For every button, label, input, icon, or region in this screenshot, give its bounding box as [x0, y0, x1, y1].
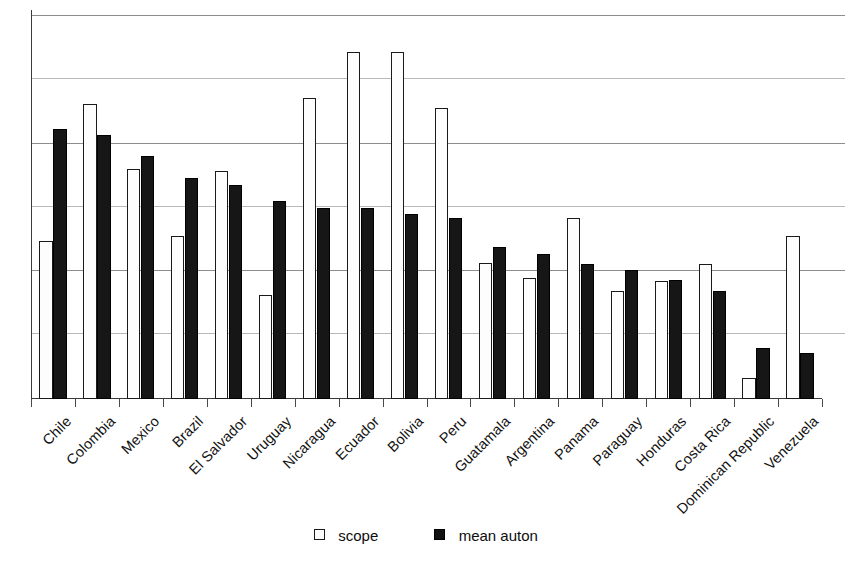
bar-scope [171, 236, 184, 399]
x-axis-tick [690, 399, 691, 407]
bar-scope [699, 264, 712, 399]
x-axis-label: Bolivia [384, 413, 426, 455]
legend-label-scope: scope [338, 526, 378, 543]
bar-scope [303, 98, 316, 399]
legend-swatch-scope-icon [314, 529, 325, 540]
bar-mean-auton [800, 353, 813, 399]
x-axis-tick [75, 399, 76, 407]
bar-mean-auton [361, 208, 374, 399]
x-axis-tick [427, 399, 428, 407]
bar-scope [215, 171, 228, 399]
x-axis-tick [822, 399, 823, 407]
bar-scope [786, 236, 799, 399]
bar-scope [39, 241, 52, 399]
bar-mean-auton [97, 135, 110, 399]
x-axis-tick [207, 399, 208, 407]
bar-mean-auton [669, 280, 682, 399]
x-axis-tick [251, 399, 252, 407]
bar-scope [435, 108, 448, 399]
x-axis-tick [339, 399, 340, 407]
x-axis-tick [163, 399, 164, 407]
bar-scope [83, 104, 96, 399]
x-axis-label: Chile [39, 413, 74, 448]
legend-item-scope: scope [314, 525, 378, 544]
chart-legend: scope mean auton [0, 524, 852, 543]
x-axis-tick [295, 399, 296, 407]
x-axis-label: Ecuador [332, 413, 382, 463]
bar-scope [611, 291, 624, 399]
bar-mean-auton [756, 348, 769, 399]
x-axis-tick [470, 399, 471, 407]
bar-mean-auton [713, 291, 726, 399]
bar-mean-auton [625, 270, 638, 399]
bar-scope [655, 281, 668, 399]
x-axis-tick [558, 399, 559, 407]
x-axis-label: Brazil [169, 413, 206, 450]
x-axis-label: Mexico [118, 413, 162, 457]
bar-mean-auton [229, 185, 242, 399]
bar-mean-auton [405, 214, 418, 400]
x-axis-label: Peru [437, 413, 470, 446]
bar-chart: ChileColombiaMexicoBrazilEl SalvadorUrug… [0, 0, 852, 583]
legend-label-mean-auton: mean auton [459, 526, 538, 543]
bar-mean-auton [273, 201, 286, 399]
x-axis-tick [734, 399, 735, 407]
bar-mean-auton [449, 218, 462, 399]
bar-scope [391, 52, 404, 399]
bar-scope [259, 295, 272, 399]
legend-swatch-mean-auton-icon [434, 529, 445, 540]
bar-scope [127, 169, 140, 399]
x-axis-tick [602, 399, 603, 407]
bars-layer [0, 0, 852, 399]
x-axis-tick [514, 399, 515, 407]
bar-mean-auton [53, 129, 66, 399]
x-axis-tick [778, 399, 779, 407]
bar-mean-auton [317, 208, 330, 399]
bar-scope [479, 263, 492, 399]
bar-scope [742, 378, 755, 399]
bar-mean-auton [141, 156, 154, 399]
bar-mean-auton [185, 178, 198, 399]
x-axis-tick [31, 399, 32, 407]
x-axis-tick [383, 399, 384, 407]
x-axis-tick [119, 399, 120, 407]
bar-scope [347, 52, 360, 399]
bar-mean-auton [493, 247, 506, 399]
x-axis-tick [646, 399, 647, 407]
bar-mean-auton [581, 264, 594, 399]
legend-item-mean-auton: mean auton [434, 525, 537, 544]
bar-mean-auton [537, 254, 550, 399]
bar-scope [523, 278, 536, 399]
x-axis-labels: ChileColombiaMexicoBrazilEl SalvadorUrug… [0, 399, 852, 519]
bar-scope [567, 218, 580, 399]
